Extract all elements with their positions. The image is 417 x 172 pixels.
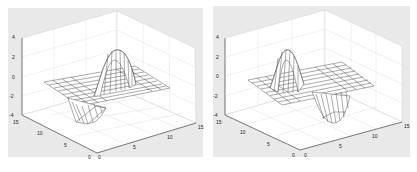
svg-text:15: 15 xyxy=(404,123,410,129)
svg-text:0: 0 xyxy=(12,74,15,80)
svg-text:2: 2 xyxy=(216,54,219,60)
svg-text:-4: -4 xyxy=(9,112,14,118)
svg-text:5: 5 xyxy=(339,143,342,149)
svg-text:-4: -4 xyxy=(213,112,218,118)
svg-text:10: 10 xyxy=(240,129,246,135)
svg-text:0: 0 xyxy=(216,73,219,79)
svg-text:10: 10 xyxy=(372,133,378,139)
svg-text:15: 15 xyxy=(216,119,222,125)
svg-text:2: 2 xyxy=(12,54,15,60)
svg-text:0: 0 xyxy=(292,152,295,158)
svg-text:-2: -2 xyxy=(9,93,14,99)
svg-text:15: 15 xyxy=(198,124,204,130)
surface-plot-right: 4 2 0 -2 -4 15 10 5 0 0 5 10 15 xyxy=(208,0,416,172)
svg-text:5: 5 xyxy=(267,141,270,147)
svg-text:0: 0 xyxy=(98,154,101,160)
svg-text:0: 0 xyxy=(304,152,307,158)
svg-text:-2: -2 xyxy=(213,93,218,99)
svg-text:15: 15 xyxy=(13,119,19,125)
svg-text:5: 5 xyxy=(133,144,136,150)
svg-text:10: 10 xyxy=(37,130,43,136)
svg-text:4: 4 xyxy=(216,34,219,40)
plot-canvas-left: 4 2 0 -2 -4 15 10 5 0 0 5 10 15 xyxy=(0,0,208,172)
plot-canvas-right: 4 2 0 -2 -4 15 10 5 0 0 5 10 15 xyxy=(208,0,417,172)
surface-plot-left: 4 2 0 -2 -4 15 10 5 0 0 5 10 15 xyxy=(0,0,208,172)
svg-text:10: 10 xyxy=(167,134,173,140)
svg-text:0: 0 xyxy=(88,154,91,160)
svg-text:5: 5 xyxy=(64,142,67,148)
svg-text:4: 4 xyxy=(12,34,15,40)
